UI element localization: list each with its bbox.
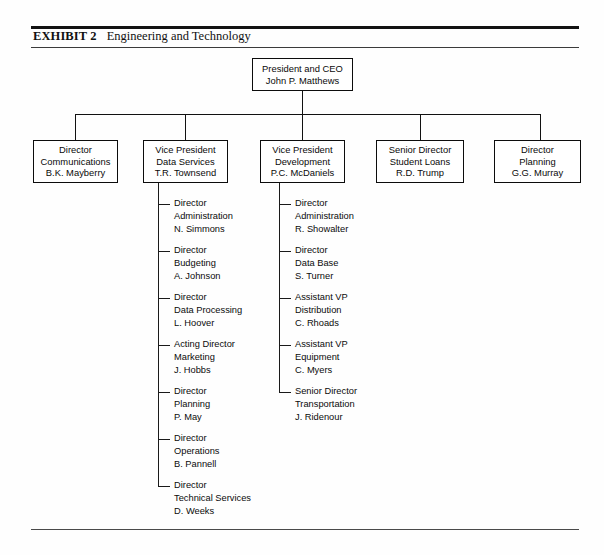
leaf-development-1[interactable]: Director Data Base S. Turner: [295, 244, 338, 283]
leaf-role: Director: [174, 479, 251, 492]
leaf-role: Director: [174, 385, 210, 398]
leaf-role: Acting Director: [174, 338, 235, 351]
node-vp-development[interactable]: Vice President Development P.C. McDaniel…: [260, 140, 345, 183]
leaf-name: C. Rhoads: [295, 317, 348, 330]
node-name: T.R. Townsend: [155, 167, 216, 178]
data-services-stem: [158, 183, 159, 486]
node-role: Senior Director: [389, 144, 452, 155]
node-unit: Student Loans: [390, 156, 450, 167]
node-role: Director: [521, 144, 554, 155]
node-vp-data-services[interactable]: Vice President Data Services T.R. Townse…: [143, 140, 228, 183]
leaf-name: A. Johnson: [174, 270, 221, 283]
node-unit: Development: [275, 156, 330, 167]
node-president-ceo[interactable]: President and CEO John P. Matthews: [252, 58, 353, 91]
leaf-name: L. Hoover: [174, 317, 242, 330]
leaf-development-3[interactable]: Assistant VP Equipment C. Myers: [295, 338, 348, 377]
leaf-data-services-0[interactable]: Director Administration N. Simmons: [174, 197, 233, 236]
leaf-data-services-1[interactable]: Director Budgeting A. Johnson: [174, 244, 221, 283]
leaf-development-4[interactable]: Senior Director Transportation J. Rideno…: [295, 385, 357, 424]
leaf-unit: Marketing: [174, 351, 235, 364]
node-unit: Data Services: [156, 156, 214, 167]
exhibit-header: EXHIBIT 2 Engineering and Technology: [33, 29, 251, 44]
drop-communications: [75, 114, 76, 141]
leaf-name: J. Ridenour: [295, 411, 357, 424]
leaf-unit: Data Processing: [174, 304, 242, 317]
drop-data-services: [185, 114, 186, 141]
leaf-role: Director: [295, 244, 338, 257]
leaf-role: Assistant VP: [295, 291, 348, 304]
leaf-name: B. Pannell: [174, 458, 219, 471]
leaf-name: N. Simmons: [174, 223, 233, 236]
leaf-data-services-3[interactable]: Acting Director Marketing J. Hobbs: [174, 338, 235, 377]
leaf-unit: Planning: [174, 398, 210, 411]
leaf-role: Director: [174, 197, 233, 210]
drop-student-loans: [420, 114, 421, 141]
leaf-name: P. May: [174, 411, 210, 424]
drop-development: [302, 114, 303, 141]
leaf-data-services-5[interactable]: Director Operations B. Pannell: [174, 432, 219, 471]
leaf-unit: Administration: [295, 210, 354, 223]
leaf-data-services-6[interactable]: Director Technical Services D. Weeks: [174, 479, 251, 518]
leaf-unit: Budgeting: [174, 257, 221, 270]
node-name: G.G. Murray: [512, 167, 564, 178]
exhibit-label: EXHIBIT 2: [33, 29, 97, 43]
exhibit-page: EXHIBIT 2 Engineering and Technology Pre…: [0, 0, 604, 555]
development-tick: [279, 345, 291, 346]
leaf-unit: Equipment: [295, 351, 348, 364]
development-stem: [279, 183, 280, 392]
leaf-name: S. Turner: [295, 270, 338, 283]
data-services-tick: [158, 392, 170, 393]
development-tick: [279, 298, 291, 299]
data-services-tick: [158, 298, 170, 299]
leaf-development-0[interactable]: Director Administration R. Showalter: [295, 197, 354, 236]
leaf-development-2[interactable]: Assistant VP Distribution C. Rhoads: [295, 291, 348, 330]
leaf-data-services-4[interactable]: Director Planning P. May: [174, 385, 210, 424]
leaf-unit: Transportation: [295, 398, 357, 411]
footer-rule: [31, 529, 579, 530]
leaf-name: J. Hobbs: [174, 364, 235, 377]
leaf-role: Director: [174, 432, 219, 445]
node-name: B.K. Mayberry: [46, 167, 105, 178]
exhibit-title: Engineering and Technology: [107, 29, 251, 43]
development-tick: [279, 392, 291, 393]
header-bottom-rule: [31, 47, 579, 48]
node-role: Vice President: [272, 144, 332, 155]
development-tick: [279, 204, 291, 205]
data-services-tick: [158, 439, 170, 440]
leaf-unit: Distribution: [295, 304, 348, 317]
node-name: P.C. McDaniels: [271, 167, 334, 178]
level2-bus: [75, 114, 541, 115]
data-services-tick: [158, 204, 170, 205]
leaf-name: R. Showalter: [295, 223, 354, 236]
leaf-role: Senior Director: [295, 385, 357, 398]
leaf-unit: Operations: [174, 445, 219, 458]
node-role: Director: [59, 144, 92, 155]
node-name: John P. Matthews: [266, 75, 339, 86]
data-services-tick: [158, 345, 170, 346]
leaf-unit: Data Base: [295, 257, 338, 270]
leaf-role: Director: [174, 291, 242, 304]
node-name: R.D. Trump: [396, 167, 444, 178]
drop-planning: [540, 114, 541, 141]
leaf-role: Director: [295, 197, 354, 210]
leaf-role: Assistant VP: [295, 338, 348, 351]
leaf-data-services-2[interactable]: Director Data Processing L. Hoover: [174, 291, 242, 330]
development-tick: [279, 251, 291, 252]
data-services-tick: [158, 486, 170, 487]
node-unit: Communications: [41, 156, 111, 167]
node-director-planning[interactable]: Director Planning G.G. Murray: [494, 140, 581, 183]
data-services-tick: [158, 251, 170, 252]
leaf-unit: Administration: [174, 210, 233, 223]
leaf-name: C. Myers: [295, 364, 348, 377]
node-senior-director-student-loans[interactable]: Senior Director Student Loans R.D. Trump: [376, 140, 464, 183]
node-role: Vice President: [155, 144, 215, 155]
leaf-name: D. Weeks: [174, 505, 251, 518]
node-director-communications[interactable]: Director Communications B.K. Mayberry: [33, 140, 118, 183]
root-stem: [302, 91, 303, 115]
leaf-role: Director: [174, 244, 221, 257]
node-role: President and CEO: [262, 63, 343, 74]
node-unit: Planning: [519, 156, 556, 167]
leaf-unit: Technical Services: [174, 492, 251, 505]
